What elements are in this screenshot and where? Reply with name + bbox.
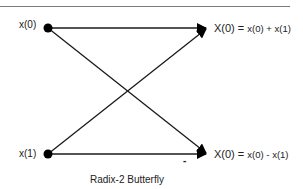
diagram-caption: Radix-2 Butterfly (90, 174, 164, 185)
input-label-x1: x(1) (19, 148, 36, 160)
output-rhs: x(0) + x(1) (247, 23, 291, 34)
output-label-X0: X(0) = x(0) + x(1) (214, 22, 291, 35)
output-label-X1: X(0) = x(0) - x(1) (214, 148, 289, 161)
edge-x1-to-X0 (48, 29, 206, 154)
input-label-x0: x(0) (19, 19, 36, 31)
input-node-x0 (44, 24, 53, 33)
output-lhs: X(0) = (214, 148, 244, 160)
input-node-x1 (44, 150, 53, 159)
twiddle-minus-sign: - (183, 155, 186, 166)
edge-x0-to-X1 (48, 28, 206, 153)
output-lhs: X(0) = (214, 22, 244, 34)
output-rhs: x(0) - x(1) (247, 149, 288, 160)
